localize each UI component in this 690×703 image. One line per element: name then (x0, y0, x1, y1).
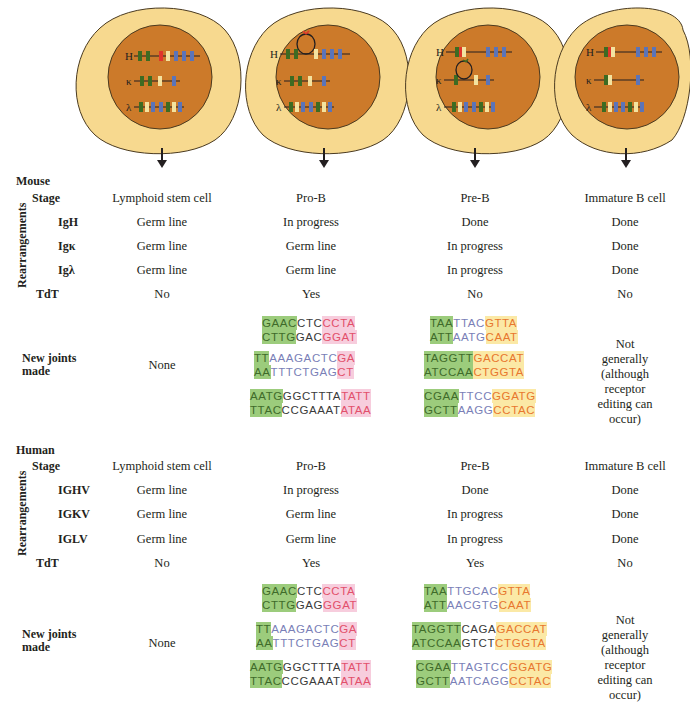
joint-sequence: AATGGGCTTTATATTTTACCCGAAATATAA (250, 660, 371, 688)
joint-sequence: TAGGTTCAGAGACCATATCCAAGTCTCTGGTA (412, 622, 547, 650)
sequence-segment: CTGGTA (495, 636, 546, 650)
sequence-segment: CAGA (461, 622, 496, 636)
stage-name: Pro-B (296, 459, 326, 474)
sequence-segment: AA (254, 365, 271, 379)
cell-value: Germ line (286, 532, 336, 547)
svg-text:κ: κ (276, 75, 282, 87)
sequence-segment: CTTG (262, 598, 296, 612)
joint-sequence: GAACCTCCCTACTTGGAGGGAT (262, 584, 357, 612)
arrow-down-icon (161, 148, 163, 162)
sequence-segment: GGCTTTA (283, 660, 341, 674)
sequence-segment: AATG (250, 660, 283, 674)
sequence-segment: GGCTTTA (283, 389, 341, 403)
cell-diagrams: H κ λ H κ λ H (0, 0, 690, 170)
joint-sequence: GAACCTCCCTACTTGGACGGAT (262, 316, 357, 344)
sequence-segment: TAA (430, 316, 453, 330)
arrow-down-icon (625, 148, 627, 162)
cell-value: Done (611, 532, 638, 547)
cell-pro-b: H κ λ (246, 8, 409, 154)
stage-name: Pre-B (460, 459, 489, 474)
sequence-segment: TATT (341, 389, 370, 403)
cell-value: Germ line (286, 239, 336, 254)
sequence-segment: CTTG (262, 330, 296, 344)
cell-value: Germ line (137, 215, 187, 230)
joints-immature: Not generally (although receptor editing… (593, 337, 658, 427)
sequence-segment: ATAA (341, 403, 372, 417)
joint-sequence: TAGGTTGACCATATCCAACTGGTA (424, 351, 524, 379)
sequence-segment: TTGCAC (447, 584, 498, 598)
joint-sequence: AATGGGCTTTATATTTTACCCGAAATATAA (250, 389, 371, 417)
stage-name: Immature B cell (584, 459, 665, 474)
sequence-bottom-strand: ATCCAACTGGTA (424, 365, 524, 379)
sequence-segment: GAAC (262, 316, 297, 330)
stage-name: Lymphoid stem cell (112, 459, 211, 474)
tdt-value: Yes (302, 556, 320, 571)
sequence-segment: GAG (296, 598, 323, 612)
svg-text:H: H (270, 48, 278, 60)
gene-label: Igκ (58, 239, 75, 254)
sequence-top-strand: TTAAAGACTCGA (254, 351, 355, 365)
sequence-bottom-strand: GCTTAAGGCCTAC (424, 403, 536, 417)
sequence-segment: AAAGACTC (271, 622, 339, 636)
sequence-segment: CT (337, 365, 354, 379)
gene-label: IGLV (58, 532, 88, 547)
sequence-top-strand: GAACCTCCCTA (262, 316, 357, 330)
gene-label: Igλ (58, 263, 75, 278)
svg-text:λ: λ (586, 101, 592, 113)
cell-value: In progress (447, 532, 503, 547)
cell-value: Done (611, 215, 638, 230)
sequence-segment: ATAA (341, 674, 372, 688)
sequence-segment: CGAA (416, 660, 451, 674)
svg-text:κ: κ (586, 74, 592, 86)
svg-text:λ: λ (126, 101, 132, 113)
sequence-segment: AAGG (458, 403, 494, 417)
rearrangements-label: Rearrangements (15, 203, 30, 288)
sequence-segment: CTC (297, 316, 322, 330)
cell-value: In progress (447, 507, 503, 522)
sequence-segment: GTTA (498, 584, 530, 598)
svg-text:λ: λ (276, 101, 282, 113)
joints-immature: Not generally (although receptor editing… (593, 613, 658, 703)
tdt-value: No (154, 287, 169, 302)
sequence-segment: TTCC (459, 389, 492, 403)
cell-value: In progress (447, 263, 503, 278)
sequence-segment: TAA (424, 584, 447, 598)
stage-name: Pre-B (460, 191, 489, 206)
sequence-segment: CCTAC (509, 674, 551, 688)
sequence-bottom-strand: ATTAACGTGCAAT (424, 598, 531, 612)
cell-value: Done (611, 483, 638, 498)
cell-pre-b: H κ λ (406, 8, 569, 154)
sequence-segment: CAAT (499, 598, 531, 612)
tdt-label: TdT (36, 287, 59, 302)
sequence-segment: TAGGTT (412, 622, 461, 636)
svg-text:H: H (586, 46, 594, 58)
cell-value: In progress (447, 239, 503, 254)
sequence-segment: ATCCAA (424, 365, 473, 379)
sequence-bottom-strand: AATTTCTGAGCT (256, 636, 357, 650)
rearrangements-label: Rearrangements (15, 471, 30, 556)
svg-text:H: H (436, 46, 444, 58)
cell-value: Done (611, 239, 638, 254)
sequence-segment: TT (254, 351, 269, 365)
sequence-top-strand: TAGGTTGACCAT (424, 351, 524, 365)
sequence-segment: GA (339, 622, 357, 636)
sequence-segment: GCTT (416, 674, 450, 688)
gene-label: IGKV (58, 507, 90, 522)
sequence-bottom-strand: AATTTCTGAGCT (254, 365, 355, 379)
svg-text:κ: κ (436, 74, 442, 86)
sequence-top-strand: TAATTACGTTA (430, 316, 518, 330)
sequence-segment: GGAT (323, 598, 357, 612)
sequence-segment: AATCAGG (450, 674, 510, 688)
joint-sequence: CGAATTAGTCCGGATGGCTTAATCAGGCCTAC (416, 660, 552, 688)
sequence-top-strand: AATGGGCTTTATATT (250, 660, 371, 674)
arrow-down-icon (474, 148, 476, 162)
tdt-value: No (617, 556, 632, 571)
cell-value: Done (611, 507, 638, 522)
cell-immature-b: H κ λ (555, 8, 690, 154)
sequence-segment: CGAA (424, 389, 459, 403)
sequence-segment: TTTCTGAG (271, 365, 338, 379)
cell-value: Done (461, 215, 488, 230)
tdt-value: No (154, 556, 169, 571)
sequence-segment: CCGAAAT (282, 674, 341, 688)
sequence-segment: ATT (430, 330, 453, 344)
